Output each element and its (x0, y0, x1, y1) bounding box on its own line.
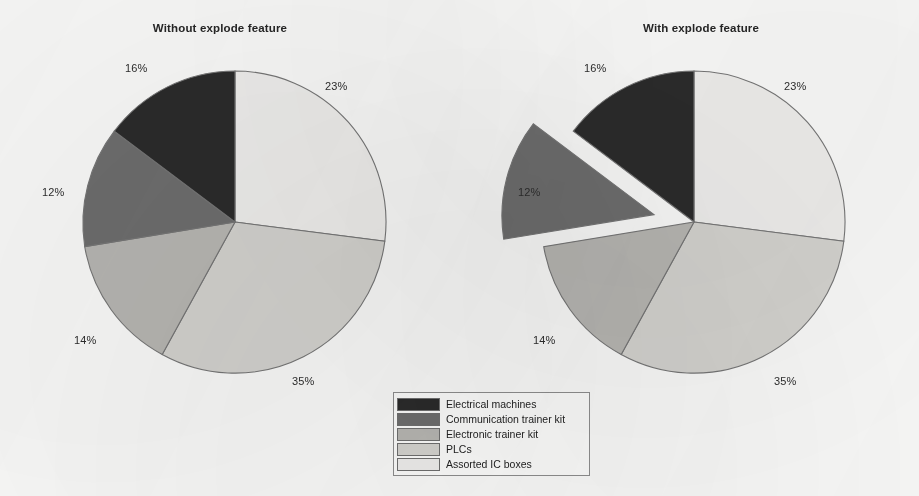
pie-slice-assorted-ic-boxes[interactable] (235, 71, 386, 241)
pie-slice-assorted-ic-boxes[interactable] (694, 71, 845, 241)
pct-label-16-right: 16% (584, 62, 606, 74)
pct-label-35-left: 35% (292, 375, 314, 387)
legend-label-electronic-trainer-kit: Electronic trainer kit (446, 429, 538, 440)
legend-swatch-electrical-machines (397, 398, 440, 411)
legend-swatch-communication-trainer-kit (397, 413, 440, 426)
pie-svg-with-explode (459, 0, 919, 420)
legend: Electrical machines Communication traine… (393, 392, 590, 476)
pie-slices-without-explode (83, 71, 386, 373)
pct-label-14-right: 14% (533, 334, 555, 346)
legend-label-assorted-ic-boxes: Assorted IC boxes (446, 459, 532, 470)
pie-chart-with-explode: 23% 35% 14% 12% 16% (459, 0, 919, 420)
pct-label-12-right: 12% (518, 186, 540, 198)
pct-label-14-left: 14% (74, 334, 96, 346)
legend-item-plcs[interactable]: PLCs (397, 442, 585, 456)
pct-label-23-right: 23% (784, 80, 806, 92)
pct-label-23-left: 23% (325, 80, 347, 92)
legend-item-communication-trainer-kit[interactable]: Communication trainer kit (397, 412, 585, 426)
chart-panel-without-explode: Without explode feature 23% 35% 14% 12% … (0, 0, 460, 496)
pie-svg-without-explode (0, 0, 460, 420)
legend-item-assorted-ic-boxes[interactable]: Assorted IC boxes (397, 457, 585, 471)
legend-item-electrical-machines[interactable]: Electrical machines (397, 397, 585, 411)
pct-label-35-right: 35% (774, 375, 796, 387)
legend-label-electrical-machines: Electrical machines (446, 399, 536, 410)
legend-swatch-plcs (397, 443, 440, 456)
legend-swatch-assorted-ic-boxes (397, 458, 440, 471)
pct-label-12-left: 12% (42, 186, 64, 198)
pie-slices-with-explode (502, 71, 845, 373)
legend-item-electronic-trainer-kit[interactable]: Electronic trainer kit (397, 427, 585, 441)
pie-chart-without-explode: 23% 35% 14% 12% 16% (0, 0, 460, 420)
legend-label-plcs: PLCs (446, 444, 472, 455)
pct-label-16-left: 16% (125, 62, 147, 74)
legend-label-communication-trainer-kit: Communication trainer kit (446, 414, 565, 425)
legend-swatch-electronic-trainer-kit (397, 428, 440, 441)
